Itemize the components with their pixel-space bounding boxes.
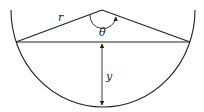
angle-label: θ xyxy=(99,26,106,39)
depth-label: y xyxy=(105,70,113,83)
trough-diagram: r θ y xyxy=(0,0,204,112)
radius-label: r xyxy=(58,11,64,24)
diagram-canvas: r θ y xyxy=(0,0,204,112)
radius-line-right xyxy=(102,10,190,42)
semicircle-arc xyxy=(11,10,195,107)
